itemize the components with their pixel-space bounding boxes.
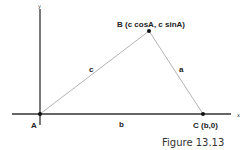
- point-a-label: A: [31, 121, 37, 130]
- point-c-label: C (b,0): [193, 121, 218, 130]
- figure-caption: Figure 13.13: [162, 137, 224, 148]
- side-b-label: b: [119, 120, 124, 129]
- side-c: [40, 31, 149, 114]
- point-c: [201, 112, 205, 116]
- side-a: [149, 31, 203, 114]
- point-b: [147, 29, 151, 33]
- side-a-label: a: [179, 65, 184, 74]
- x-axis-label: x: [237, 112, 240, 118]
- y-axis-label: y: [38, 3, 41, 10]
- side-c-label: c: [89, 65, 94, 74]
- triangle-diagram: y x B (c cosA, c sinA) c a A b C (b,0) F…: [0, 0, 243, 150]
- point-a: [38, 112, 42, 116]
- point-b-label: B (c cosA, c sinA): [117, 20, 185, 29]
